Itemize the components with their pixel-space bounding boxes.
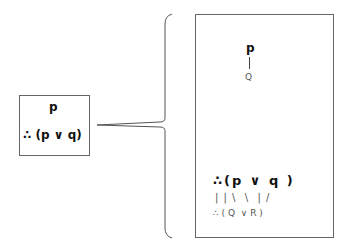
upper-instance: Q	[245, 72, 252, 82]
expansion-box: p Q ∴(p ∨ q ) | | \ \ | / ∴ ( Q ∨ R )	[195, 14, 334, 238]
upper-symbol: p	[246, 41, 255, 55]
conclusion-text: ∴ (p ∨ q)	[23, 128, 82, 142]
premise-box: p ∴ (p ∨ q)	[19, 95, 90, 156]
lower-connectors: | | \ \ | /	[215, 192, 270, 203]
premise-text: p	[49, 100, 58, 114]
upper-connector-line	[249, 57, 250, 69]
lower-formula: ∴(p ∨ q )	[213, 173, 295, 188]
lower-instance: ∴ ( Q ∨ R )	[213, 208, 263, 218]
